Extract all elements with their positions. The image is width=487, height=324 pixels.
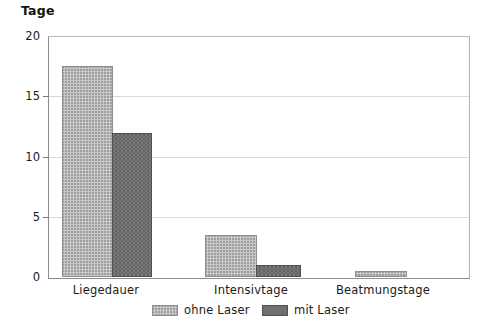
legend-entry-mit-laser[interactable]: mit Laser — [262, 303, 350, 317]
y-tick-label-20: 20 — [4, 29, 40, 43]
x-axis-category-labels: Liegedauer Intensivtage Beatmungstage — [48, 283, 468, 301]
x-label-liegedauer: Liegedauer — [73, 283, 140, 297]
x-label-beatmungstage: Beatmungstage — [336, 283, 430, 297]
legend-swatch-mit-laser — [262, 305, 288, 316]
x-label-intensivtage: Intensivtage — [214, 283, 288, 297]
bar-liegedauer-ohne-laser[interactable] — [62, 66, 113, 277]
legend-label-mit-laser: mit Laser — [294, 303, 350, 317]
bar-beatmungstage-ohne-laser[interactable] — [355, 271, 407, 277]
legend-swatch-ohne-laser — [152, 305, 178, 316]
legend-entry-ohne-laser[interactable]: ohne Laser — [152, 303, 250, 317]
bars-layer — [49, 37, 468, 277]
y-tick-label-15: 15 — [4, 89, 40, 103]
y-tick-label-10: 10 — [4, 150, 40, 164]
bar-intensivtage-ohne-laser[interactable] — [205, 235, 257, 277]
bar-liegedauer-mit-laser[interactable] — [112, 133, 152, 277]
y-tick-label-5: 5 — [4, 210, 40, 224]
chart-legend: ohne Laser mit Laser — [0, 303, 487, 321]
y-axis-tick-labels: 20 15 10 5 0 — [0, 0, 40, 324]
legend-label-ohne-laser: ohne Laser — [184, 303, 250, 317]
y-tick-label-0: 0 — [4, 270, 40, 284]
bar-intensivtage-mit-laser[interactable] — [256, 265, 301, 277]
bar-chart: Tage 20 15 10 5 0 Liegedauer Intensivtag… — [0, 0, 487, 324]
